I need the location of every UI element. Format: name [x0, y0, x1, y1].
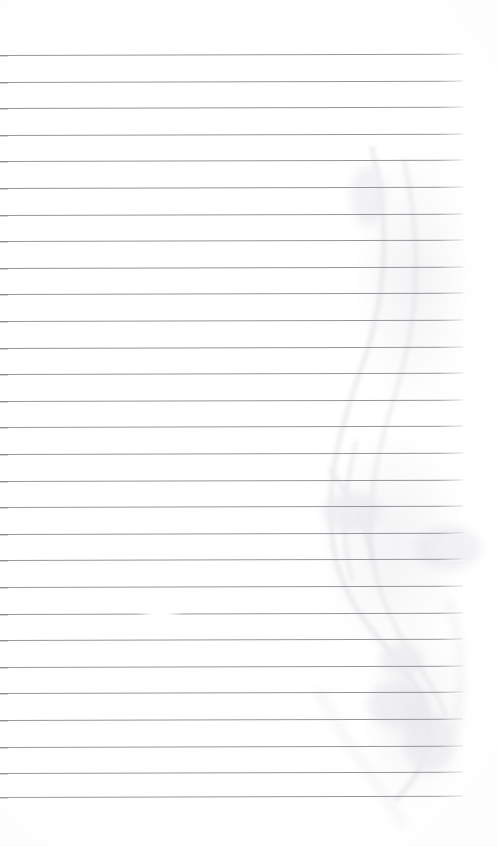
- rule-line: [0, 692, 463, 694]
- rule-line: [0, 612, 463, 614]
- rule-line: [0, 533, 463, 535]
- scan-vignette: [0, 0, 497, 847]
- rule-line: [0, 400, 463, 402]
- rule-line: [0, 160, 463, 162]
- ruled-lines: [0, 0, 497, 847]
- rule-line: [0, 426, 463, 428]
- bleed-through-marks: [0, 0, 497, 847]
- rule-line: [0, 267, 463, 269]
- rule-line: [0, 479, 463, 481]
- paper-surface: [0, 0, 497, 847]
- rule-line: [0, 187, 463, 189]
- rule-line: [0, 213, 463, 215]
- rule-line: [0, 745, 463, 747]
- rule-line: [0, 346, 463, 348]
- rule-line: [0, 373, 463, 375]
- rule-line: [0, 506, 463, 508]
- rule-line: [0, 719, 463, 721]
- scan-smudge: [360, 620, 470, 810]
- scan-smudge: [352, 150, 472, 410]
- rule-line: [0, 666, 463, 668]
- rule-line: [0, 772, 463, 774]
- rule-line: [0, 240, 463, 242]
- rule-line: [0, 54, 463, 56]
- rule-line: [0, 80, 463, 82]
- rule-line: [0, 796, 463, 798]
- rule-line: [0, 586, 463, 588]
- rule-line: [0, 293, 463, 295]
- rule-line: [0, 107, 463, 109]
- rule-line: [0, 134, 463, 136]
- rule-line: [0, 453, 463, 455]
- scanned-page: [0, 0, 497, 847]
- rule-line: [0, 639, 463, 641]
- rule-line: [0, 559, 463, 561]
- scan-smudge: [318, 430, 468, 660]
- scan-dropout: [136, 613, 184, 616]
- rule-line: [0, 320, 463, 322]
